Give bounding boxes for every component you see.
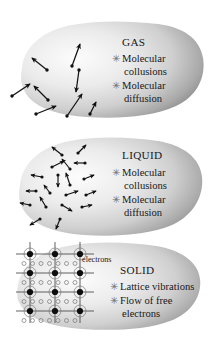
particle-dot — [58, 217, 61, 220]
liquid-heading: LIQUID — [122, 149, 162, 161]
particle-dot — [84, 193, 87, 196]
particle-dot — [50, 165, 53, 168]
electrons-label: electrons — [82, 255, 112, 264]
particle-dot — [48, 191, 51, 194]
liquid-bullet-mark-1: ✳ — [112, 168, 120, 178]
lattice-atom — [27, 251, 33, 257]
particle-dot — [34, 189, 37, 192]
gas-bullet-2-line-2: diffusion — [124, 93, 163, 104]
liquid-bullet-2-line-2: diffusion — [124, 207, 163, 218]
solid-heading: SOLID — [120, 264, 154, 276]
gas-bullet-1-line-2: collusions — [124, 66, 167, 77]
free-electron — [22, 319, 26, 323]
particle-dot — [70, 64, 73, 67]
particle-dot — [83, 161, 86, 164]
particle-dot — [88, 112, 91, 115]
particle-dot — [44, 205, 47, 208]
particle-dot — [60, 153, 63, 156]
liquid-bullet-1-line-2: collusions — [124, 180, 167, 191]
particle-dot — [77, 68, 80, 71]
lattice-atom — [77, 308, 83, 314]
particle-dot — [34, 112, 37, 115]
solid-bullet-2-line-1: Flow of free — [120, 295, 173, 306]
lattice-atom — [27, 289, 33, 295]
particle-dot — [65, 114, 68, 117]
lattice-atom — [27, 308, 33, 314]
gas-heading: GAS — [122, 36, 145, 48]
particle-dot — [60, 203, 63, 206]
gas-bullet-mark-2: ✳ — [112, 81, 120, 91]
solid-panel-svg: electrons SOLID ✳ Lattice vibrations ✳ F… — [0, 240, 218, 330]
particle-dot — [82, 177, 85, 180]
liquid-bullet-mark-2: ✳ — [112, 195, 120, 205]
particle-dot — [68, 183, 71, 186]
particle-dot — [76, 151, 79, 154]
lattice-atom — [52, 308, 58, 314]
lattice-atom — [52, 289, 58, 295]
particle-dot — [45, 68, 48, 71]
solid-bullet-mark-2: ✳ — [110, 296, 118, 306]
particle-dot — [68, 167, 71, 170]
solid-bullet-mark-1: ✳ — [110, 282, 118, 292]
free-electron — [22, 262, 26, 266]
states-of-matter-figure: GAS ✳ Molecular collusions ✳ Molecular d… — [0, 0, 218, 337]
liquid-bullet-2-line-1: Molecular — [122, 194, 166, 205]
lattice-atom — [27, 270, 33, 276]
solid-bullet-1-line-1: Lattice vibrations — [120, 281, 194, 292]
lattice-atom — [77, 270, 83, 276]
liquid-panel-svg: LIQUID ✳ Molecular collusions ✳ Molecula… — [0, 133, 218, 237]
lattice-atom — [52, 270, 58, 276]
particle-dot — [64, 193, 67, 196]
gas-bullet-1-line-1: Molecular — [122, 53, 166, 64]
particle-dot — [40, 175, 43, 178]
particle-dot — [80, 205, 83, 208]
lattice-atom — [52, 251, 58, 257]
lattice-atom — [77, 289, 83, 295]
particle-dot — [46, 98, 49, 101]
particle-dot — [56, 173, 59, 176]
particle-dot — [10, 94, 13, 97]
gas-panel-svg: GAS ✳ Molecular collusions ✳ Molecular d… — [0, 18, 218, 118]
free-electron — [31, 319, 35, 323]
panel-solid: electrons SOLID ✳ Lattice vibrations ✳ F… — [0, 240, 218, 330]
particle-dot — [38, 217, 41, 220]
panel-liquid: LIQUID ✳ Molecular collusions ✳ Molecula… — [0, 133, 218, 237]
gas-bullet-mark-1: ✳ — [112, 54, 120, 64]
panel-gas: GAS ✳ Molecular collusions ✳ Molecular d… — [0, 18, 218, 118]
liquid-bullet-1-line-1: Molecular — [122, 167, 166, 178]
gas-bullet-2-line-1: Molecular — [122, 80, 166, 91]
liquid-blob — [19, 138, 202, 236]
solid-bullet-2-line-2: electrons — [122, 308, 160, 319]
particle-dot — [28, 203, 31, 206]
